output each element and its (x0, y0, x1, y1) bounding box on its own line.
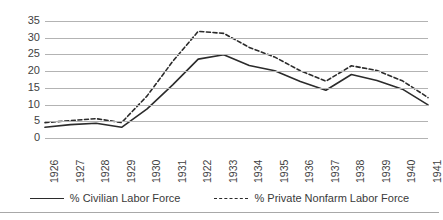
x-tick-label-4: 1930 (151, 143, 162, 183)
x-tick-label-13: 1939 (381, 143, 392, 183)
x-tick-label-8: 1934 (253, 143, 264, 183)
legend-swatch-solid-icon (30, 198, 64, 199)
gridline-15 (45, 88, 428, 89)
y-tick-label-30: 30 (2, 32, 40, 43)
x-tick-label-5: 1931 (177, 143, 188, 183)
x-tick-label-10: 1936 (304, 143, 315, 183)
chart-legend: % Civilian Labor Force % Private Nonfarm… (0, 188, 439, 208)
x-tick-label-6: 1922 (202, 143, 213, 183)
gridline-5 (45, 121, 428, 122)
x-tick-label-1: 1927 (75, 143, 86, 183)
y-tick-label-20: 20 (2, 65, 40, 76)
y-tick-label-5: 5 (2, 115, 40, 126)
gridline-0 (45, 138, 428, 139)
y-tick-label-0: 0 (2, 132, 40, 143)
x-axis: 1926192719281929193019311922193319341935… (45, 141, 428, 186)
x-tick-label-9: 1935 (279, 143, 290, 183)
x-tick-label-15: 1941 (432, 143, 443, 183)
x-tick-label-12: 1938 (355, 143, 366, 183)
x-tick-label-2: 1928 (100, 143, 111, 183)
gridline-10 (45, 105, 428, 106)
gridline-35 (45, 21, 428, 22)
gridline-20 (45, 71, 428, 72)
y-tick-label-35: 35 (2, 15, 40, 26)
x-tick-label-0: 1926 (49, 143, 60, 183)
series-line-1 (45, 31, 428, 122)
x-tick-label-14: 1940 (406, 143, 417, 183)
plot-area (45, 21, 428, 138)
x-tick-label-7: 1933 (228, 143, 239, 183)
bottom-divider (0, 212, 439, 213)
x-tick-label-11: 1937 (330, 143, 341, 183)
legend-label-nonfarm: % Private Nonfarm Labor Force (254, 192, 409, 204)
y-tick-label-10: 10 (2, 99, 40, 110)
y-axis: 35302520151050 (0, 21, 40, 138)
gridline-25 (45, 54, 428, 55)
legend-item-nonfarm: % Private Nonfarm Labor Force (214, 192, 409, 204)
y-tick-label-25: 25 (2, 48, 40, 59)
legend-swatch-dashed-icon (214, 198, 248, 199)
gridline-30 (45, 38, 428, 39)
y-tick-label-15: 15 (2, 82, 40, 93)
legend-item-civilian: % Civilian Labor Force (30, 192, 181, 204)
x-tick-label-3: 1929 (126, 143, 137, 183)
legend-label-civilian: % Civilian Labor Force (70, 192, 181, 204)
series-line-0 (45, 55, 428, 128)
